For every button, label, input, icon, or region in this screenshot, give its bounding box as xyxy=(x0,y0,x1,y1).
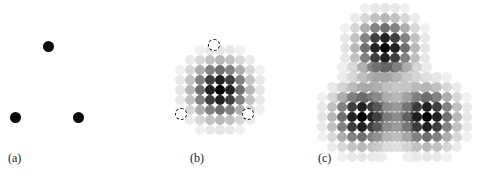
kernel-c-cell xyxy=(442,112,452,122)
source-marker-top xyxy=(208,39,220,51)
kernel-c-cell xyxy=(370,3,380,13)
kernel-c-cell xyxy=(412,102,422,112)
kernel-c-cell xyxy=(357,102,367,112)
kernel-c-cell xyxy=(327,132,337,142)
kernel-c-cell xyxy=(327,112,337,122)
kernel-b-cell xyxy=(205,65,215,75)
kernel-b-cell xyxy=(245,85,255,95)
kernel-c-cell xyxy=(410,23,420,33)
kernel-c-cell xyxy=(422,122,432,132)
point-source-top xyxy=(43,41,54,52)
kernel-c-cell xyxy=(432,142,442,152)
kernel-b-cell xyxy=(175,85,185,95)
kernel-c-cell xyxy=(452,112,462,122)
kernel-c-cell xyxy=(360,3,370,13)
kernel-c-cell xyxy=(357,152,367,162)
kernel-c-cell xyxy=(420,43,430,53)
kernel-c-cell xyxy=(442,92,452,102)
kernel-c-cell xyxy=(420,23,430,33)
kernel-b-cell xyxy=(205,95,215,105)
kernel-c-cell xyxy=(347,102,357,112)
kernel-b-cell xyxy=(205,55,215,65)
kernel-b-cell xyxy=(235,85,245,95)
kernel-c-cell xyxy=(442,102,452,112)
kernel-c-cell xyxy=(462,112,472,122)
kernel-c-cell xyxy=(360,13,370,23)
kernel-b-cell xyxy=(195,55,205,65)
kernel-c-cell xyxy=(317,112,327,122)
kernel-c-cell xyxy=(432,72,442,82)
kernel-c-cell xyxy=(317,92,327,102)
kernel-b-cell xyxy=(205,115,215,125)
kernel-b-cell xyxy=(255,75,265,85)
kernel-c-cell xyxy=(442,142,452,152)
kernel-c-cell xyxy=(422,132,432,142)
kernel-b-cell xyxy=(245,95,255,105)
kernel-c-cell xyxy=(442,132,452,142)
kernel-b-cell xyxy=(255,85,265,95)
kernel-c-cell xyxy=(432,102,442,112)
kernel-b-cell xyxy=(245,55,255,65)
kernel-c-cell xyxy=(410,43,420,53)
kernel-c-cell xyxy=(340,33,350,43)
kernel-c-cell xyxy=(432,122,442,132)
kernel-c-cell xyxy=(347,122,357,132)
kernel-b-cell xyxy=(205,125,215,135)
kernel-b-cell xyxy=(255,105,265,115)
kernel-c-cell xyxy=(357,112,367,122)
kernel-b-cell xyxy=(255,65,265,75)
kernel-c-cell xyxy=(422,112,432,122)
kernel-c-cell xyxy=(422,152,432,162)
kernel-b-cell xyxy=(215,105,225,115)
kernel-c-cell xyxy=(390,43,400,53)
kernel-c-cell xyxy=(442,122,452,132)
kernel-b-cell xyxy=(215,125,225,135)
kernel-c-cell xyxy=(400,23,410,33)
kernel-b-cell xyxy=(205,75,215,85)
kernel-c-cell xyxy=(400,33,410,43)
kernel-c-cell xyxy=(432,92,442,102)
kernel-b-cell xyxy=(215,115,225,125)
kernel-b-cell xyxy=(215,65,225,75)
kernel-b-cell xyxy=(195,105,205,115)
kernel-c-cell xyxy=(452,122,462,132)
kernel-c-cell xyxy=(380,43,390,53)
kernel-c-cell xyxy=(452,142,462,152)
kernel-c-cell xyxy=(337,132,347,142)
kernel-b-cell xyxy=(185,55,195,65)
kernel-b-cell xyxy=(185,85,195,95)
kernel-c-cell xyxy=(390,23,400,33)
source-marker-bottom-right xyxy=(242,108,254,120)
kernel-c-cell xyxy=(412,152,422,162)
kernel-b-cell xyxy=(235,45,245,55)
point-source-bottom-right xyxy=(73,112,84,123)
kernel-c-cell xyxy=(380,3,390,13)
kernel-c-cell xyxy=(360,43,370,53)
kernel-c-cell xyxy=(442,82,452,92)
kernel-b-cell xyxy=(205,105,215,115)
kernel-c-cell xyxy=(400,3,410,13)
kernel-c-cell xyxy=(337,122,347,132)
kernel-c-cell xyxy=(400,13,410,23)
kernel-c-cell xyxy=(390,33,400,43)
kernel-b-cell xyxy=(205,85,215,95)
kernel-c-cell xyxy=(357,142,367,152)
kernel-c-cell xyxy=(432,112,442,122)
kernel-c-cell xyxy=(422,142,432,152)
kernel-c-cell xyxy=(357,132,367,142)
kernel-c-cell xyxy=(422,62,432,72)
kernel-c-cell xyxy=(337,102,347,112)
kernel-b-cell xyxy=(225,125,235,135)
kernel-c-cell xyxy=(360,33,370,43)
kernel-c-cell xyxy=(317,122,327,132)
panel-label-a: (a) xyxy=(8,152,21,164)
kernel-c-cell xyxy=(317,132,327,142)
kernel-b-cell xyxy=(225,45,235,55)
kernel-c-cell xyxy=(410,33,420,43)
panel-label-b: (b) xyxy=(190,152,204,164)
kernel-b-cell xyxy=(195,45,205,55)
kernel-c-cell xyxy=(452,92,462,102)
kernel-c-cell xyxy=(337,112,347,122)
kernel-c-cell xyxy=(380,13,390,23)
kernel-b-cell xyxy=(195,85,205,95)
